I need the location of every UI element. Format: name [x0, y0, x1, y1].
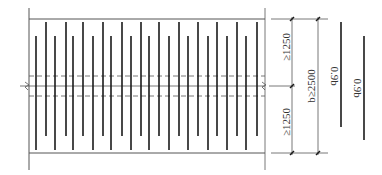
dimension-lines — [269, 17, 328, 155]
reinforcement-diagram: ≥1250 ≥1250 b≥2500 0.9b 0.9b — [0, 0, 382, 175]
legend-label-1: 0.9b — [329, 66, 341, 86]
dim-label-total: b≥2500 — [305, 69, 317, 103]
frame — [20, 8, 266, 170]
dim-label-top: ≥1250 — [280, 32, 292, 61]
dim-label-bottom: ≥1250 — [280, 107, 292, 136]
legend-label-2: 0.9b — [352, 78, 364, 98]
